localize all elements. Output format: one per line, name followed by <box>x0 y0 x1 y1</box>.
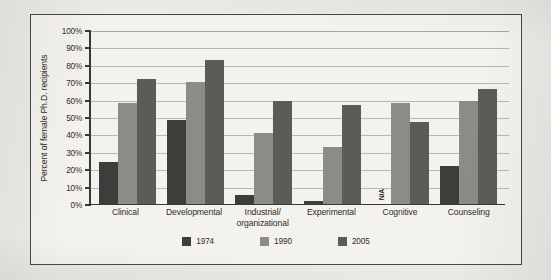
bar-groups: N/A <box>91 31 505 204</box>
y-axis-tick-label: 80% <box>66 61 82 70</box>
y-axis-tick-label: 90% <box>66 44 82 53</box>
plot-area: 100%90%80%70%60%50%40%30%20%10%0% N/A <box>89 31 505 205</box>
y-axis-tick-label: 0% <box>71 201 82 210</box>
x-axis-label: Cognitive <box>366 207 435 228</box>
chart-frame: Percent of female Ph.D. recipients 100%9… <box>30 14 522 265</box>
bar-group <box>298 31 366 204</box>
bar-1990 <box>459 101 478 204</box>
bar-2005 <box>137 79 156 204</box>
bar-missing-na: N/A <box>372 31 391 204</box>
y-axis-tick-label: 10% <box>66 183 82 192</box>
legend-item-1990: 1990 <box>260 237 292 246</box>
bar-1990 <box>254 133 273 204</box>
bar-1974 <box>235 195 254 204</box>
legend-label: 1990 <box>274 237 292 246</box>
legend-item-1974: 1974 <box>182 237 214 246</box>
legend-swatch <box>182 237 191 246</box>
bar-group <box>161 31 229 204</box>
legend-label: 2005 <box>352 237 370 246</box>
legend-item-2005: 2005 <box>338 237 370 246</box>
y-axis-tick <box>85 204 91 206</box>
na-label: N/A <box>378 189 385 200</box>
bar-group <box>93 31 161 204</box>
figure-page: Percent of female Ph.D. recipients 100%9… <box>0 0 551 280</box>
y-axis-tick-label: 60% <box>66 96 82 105</box>
legend-swatch <box>338 237 347 246</box>
bar-1974 <box>99 162 118 204</box>
legend-label: 1974 <box>196 237 214 246</box>
bar-1990 <box>186 82 205 204</box>
bar-group: N/A <box>366 31 434 204</box>
bar-2005 <box>205 60 224 204</box>
bar-1974 <box>304 201 323 204</box>
bar-1974 <box>167 120 186 204</box>
bar-1990 <box>118 103 137 204</box>
bar-1990 <box>391 103 410 204</box>
x-axis-label: Industrial/organizational <box>228 207 297 228</box>
x-axis-label: Clinical <box>91 207 160 228</box>
bar-group <box>435 31 503 204</box>
x-axis-labels: ClinicalDevelopmentalIndustrial/organiza… <box>89 207 505 228</box>
y-axis-title: Percent of female Ph.D. recipients <box>36 31 50 205</box>
bar-2005 <box>342 105 361 204</box>
y-axis-tick-label: 30% <box>66 148 82 157</box>
bar-1974 <box>440 166 459 204</box>
chart-legend: 197419902005 <box>31 237 521 246</box>
y-axis-tick-label: 70% <box>66 79 82 88</box>
y-axis-title-text: Percent of female Ph.D. recipients <box>38 54 48 181</box>
bar-1990 <box>323 147 342 204</box>
bar-2005 <box>273 101 292 204</box>
y-axis-tick-label: 100% <box>62 27 82 36</box>
y-axis-tick-label: 20% <box>66 166 82 175</box>
bar-2005 <box>478 89 497 204</box>
x-axis-label: Developmental <box>160 207 229 228</box>
bar-2005 <box>410 122 429 204</box>
y-axis-tick-label: 50% <box>66 114 82 123</box>
y-axis-tick-label: 40% <box>66 131 82 140</box>
x-axis-label: Counseling <box>434 207 503 228</box>
legend-swatch <box>260 237 269 246</box>
bar-group <box>230 31 298 204</box>
x-axis-label: Experimental <box>297 207 366 228</box>
